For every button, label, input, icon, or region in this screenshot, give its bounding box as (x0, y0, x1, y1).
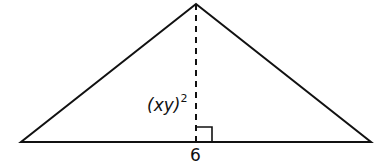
base-label: 6 (190, 147, 201, 164)
triangle-diagram (0, 0, 385, 166)
height-label-base: (xy) (147, 95, 180, 115)
right-angle-marker (196, 127, 212, 142)
height-label: (xy)2 (147, 95, 187, 114)
height-label-exponent: 2 (180, 92, 187, 105)
